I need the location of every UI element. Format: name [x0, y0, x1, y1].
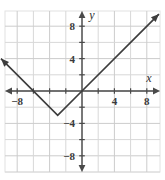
absolute-value-graph-chart: −84884−4−8 x y — [0, 0, 165, 180]
y-axis-label: y — [88, 8, 95, 22]
y-tick-label: 4 — [70, 53, 76, 65]
x-tick-label: 8 — [144, 95, 150, 107]
y-tick-label: 8 — [70, 20, 76, 32]
y-tick-label: −8 — [63, 150, 75, 162]
x-tick-label: −8 — [11, 95, 23, 107]
coordinate-plane-svg: −84884−4−8 x y — [0, 0, 165, 180]
x-axis-label: x — [145, 71, 152, 85]
x-tick-label: 4 — [112, 95, 118, 107]
y-tick-label: −4 — [63, 117, 75, 129]
